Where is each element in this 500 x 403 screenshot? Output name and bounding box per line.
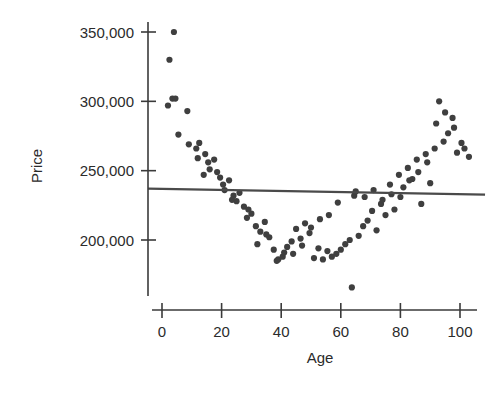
y-tick-label: 200,000 [80,232,134,249]
data-point [262,219,268,225]
data-point [306,230,312,236]
x-tick-label: 40 [273,323,290,340]
data-point [302,220,308,226]
data-point [245,206,251,212]
data-point [290,251,296,257]
data-point [195,155,201,161]
x-tick-label: 80 [392,323,409,340]
data-point [299,242,305,248]
scatter-plot-figure: 200,000250,000300,000350,000 02040608010… [0,0,500,403]
data-point [172,95,178,101]
data-point [349,284,355,290]
data-point [211,156,217,162]
data-point [271,247,277,253]
x-axis-title: Age [307,349,334,366]
data-point [415,169,421,175]
data-point [427,180,433,186]
data-point [432,145,438,151]
data-points-group [165,29,472,291]
data-point [449,115,455,121]
data-point [171,29,177,35]
data-point [274,258,280,264]
data-point [441,138,447,144]
data-point [220,181,226,187]
data-point [186,141,192,147]
data-point [387,181,393,187]
data-point [396,172,402,178]
data-point [458,140,464,146]
data-point [297,236,303,242]
data-point [405,165,411,171]
data-point [317,216,323,222]
data-point [289,238,295,244]
data-point [324,248,330,254]
x-tick-label: 0 [158,323,166,340]
data-point [165,102,171,108]
data-point [433,120,439,126]
data-point [233,198,239,204]
data-point [442,109,448,115]
data-point [193,145,199,151]
data-point [207,166,213,172]
data-point [175,132,181,138]
data-point [373,227,379,233]
x-axis-ticks: 020406080100 [158,303,473,340]
data-point [356,233,362,239]
data-point [326,212,332,218]
data-point [391,206,397,212]
data-point [166,57,172,63]
trend-line [148,189,485,195]
data-point [202,151,208,157]
x-tick-label: 20 [213,323,230,340]
y-axis-ticks: 200,000250,000300,000350,000 [80,24,156,249]
data-point [461,145,467,151]
data-point [418,201,424,207]
data-point [311,255,317,261]
y-tick-label: 350,000 [80,24,134,41]
data-point [382,212,388,218]
data-point [254,241,260,247]
data-point [335,199,341,205]
data-point [293,226,299,232]
chart-canvas: 200,000250,000300,000350,000 02040608010… [0,0,500,403]
data-point [369,208,375,214]
data-point [466,154,472,160]
data-point [347,237,353,243]
data-point [406,177,412,183]
y-tick-label: 250,000 [80,162,134,179]
data-point [397,194,403,200]
data-point [379,197,385,203]
data-point [284,244,290,250]
data-point [281,249,287,255]
data-point [263,231,269,237]
data-point [253,223,259,229]
data-point [196,140,202,146]
data-point [214,169,220,175]
data-point [315,245,321,251]
data-point [257,229,263,235]
data-point [201,172,207,178]
data-point [400,184,406,190]
data-point [362,194,368,200]
data-point [414,156,420,162]
data-point [424,159,430,165]
data-point [436,98,442,104]
data-point [338,247,344,253]
data-point [308,224,314,230]
data-point [226,177,232,183]
data-point [454,150,460,156]
data-point [423,151,429,157]
y-tick-label: 300,000 [80,93,134,110]
data-point [360,223,366,229]
data-point [217,175,223,181]
data-point [445,130,451,136]
data-point [184,108,190,114]
data-point [365,217,371,223]
y-axis-title: Price [28,149,45,183]
data-point [320,256,326,262]
data-point [451,125,457,131]
x-tick-label: 100 [447,323,472,340]
x-tick-label: 60 [332,323,349,340]
data-point [205,159,211,165]
